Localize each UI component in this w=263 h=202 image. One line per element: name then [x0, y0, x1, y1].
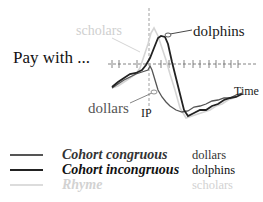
dolphins-annotation: dolphins [193, 24, 245, 39]
dolphins-pointer-end [165, 33, 171, 37]
dollars-annotation: dollars [88, 101, 129, 116]
legend-word: scholars [192, 178, 233, 193]
legend-label: Rhyme [62, 177, 102, 193]
dollars-pointer-end [151, 90, 157, 94]
legend-swatch [10, 184, 43, 186]
legend-label: Cohort congruous [62, 147, 167, 163]
legend-swatch [10, 169, 43, 171]
dolphins-pointer [170, 30, 192, 34]
scholars-annotation: scholars [76, 24, 122, 38]
ip-label: IP [141, 107, 152, 119]
time-axis-label: Time [234, 85, 259, 97]
legend-word: dolphins [192, 163, 235, 178]
legend-swatch [10, 154, 43, 156]
sentence-prompt: Pay with ... [13, 49, 90, 66]
legend-label: Cohort incongruous [62, 162, 179, 178]
legend-word: dollars [192, 148, 226, 163]
scholars-pointer [112, 38, 140, 52]
